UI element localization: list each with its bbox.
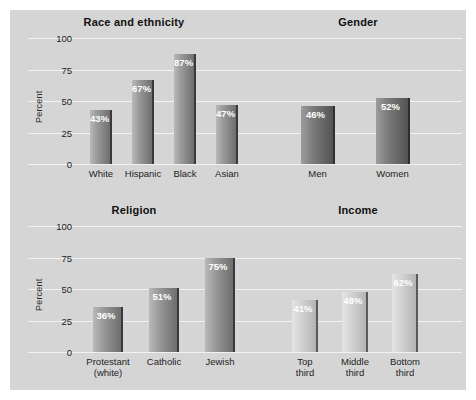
category-label-line: Asian [206,168,248,179]
bar: 46% [301,106,335,164]
x-axis-baseline [280,164,430,165]
bar-value-label: 48% [342,295,364,306]
bar-value-label: 36% [93,310,118,321]
y-axis-tick-label: 25 [18,315,72,326]
y-axis-tick-label: 75 [18,252,72,263]
category-label-line: White [80,168,122,179]
x-axis-baseline [280,352,430,353]
y-axis-tick-label: 50 [18,96,72,107]
y-axis-tick-label: 25 [18,127,72,138]
bar-value-label: 75% [205,261,230,272]
x-axis-category-label: Topthird [280,356,330,378]
figure-panel: Race and ethnicity0255075100Percent43%Wh… [10,10,466,390]
category-label-line: Jewish [192,356,248,367]
category-label-line: Black [164,168,206,179]
bar: 43% [90,110,112,164]
x-axis-category-label: Black [164,168,206,179]
bar-value-label: 67% [132,83,150,94]
bar: 75% [205,258,234,353]
chart-panel-gender: Gender46%Men52%Women [254,16,462,200]
x-axis-baseline [80,352,248,353]
bar: 67% [132,80,154,164]
bar: 48% [342,292,368,352]
category-label-line: Middle [330,356,380,367]
x-axis-category-label: Bottomthird [380,356,430,378]
y-axis-title: Percent [34,279,44,311]
chart-title: Income [254,204,462,216]
category-label-line: (white) [80,367,136,378]
y-axis-tick-label: 50 [18,284,72,295]
bar-value-label: 51% [149,291,174,302]
category-label-line: Women [355,168,430,179]
bar: 47% [216,105,238,164]
y-axis-tick-label: 100 [18,33,72,44]
bar: 36% [93,307,122,352]
category-label-line: Catholic [136,356,192,367]
chart-title: Gender [254,16,462,28]
bar: 62% [392,274,418,352]
chart-panel-race-and-ethnicity: Race and ethnicity0255075100Percent43%Wh… [18,16,250,200]
category-label-line: Protestant [80,356,136,367]
bar-value-label: 46% [301,109,331,120]
y-axis-tick-label: 75 [18,64,72,75]
category-label-line: third [330,367,380,378]
category-label-line: Hispanic [122,168,164,179]
y-axis-tick-label: 0 [18,159,72,170]
bar-value-label: 87% [174,57,192,68]
category-label-line: third [380,367,430,378]
bar: 41% [292,300,318,352]
bar: 52% [376,98,410,164]
bar-value-label: 41% [292,303,314,314]
category-label-line: Bottom [380,356,430,367]
chart-panel-religion: Religion0255075100Percent36%Protestant(w… [18,204,250,388]
x-axis-category-label: Jewish [192,356,248,367]
x-axis-category-label: Protestant(white) [80,356,136,378]
bar: 87% [174,54,196,164]
x-axis-baseline [80,164,248,165]
x-axis-category-label: Men [280,168,355,179]
chart-title: Race and ethnicity [18,16,250,28]
y-axis-tick-label: 0 [18,347,72,358]
category-label-line: Top [280,356,330,367]
category-label-line: third [280,367,330,378]
x-axis-category-label: Asian [206,168,248,179]
x-axis-category-label: White [80,168,122,179]
bar-value-label: 62% [392,277,414,288]
x-axis-category-label: Hispanic [122,168,164,179]
y-axis-title: Percent [34,91,44,123]
category-label-line: Men [280,168,355,179]
bar: 51% [149,288,178,352]
bar-value-label: 47% [216,108,234,119]
y-axis-tick-label: 100 [18,221,72,232]
x-axis-category-label: Women [355,168,430,179]
bar-value-label: 52% [376,101,406,112]
bar-value-label: 43% [90,113,108,124]
x-axis-category-label: Catholic [136,356,192,367]
x-axis-category-label: Middlethird [330,356,380,378]
chart-title: Religion [18,204,250,216]
chart-panel-income: Income41%Topthird48%Middlethird62%Bottom… [254,204,462,388]
